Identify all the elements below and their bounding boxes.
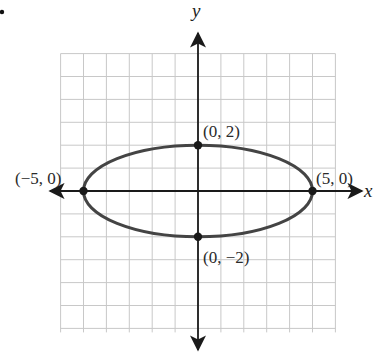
x-axis-label: x xyxy=(363,180,373,201)
point-bottom-covertex xyxy=(194,233,202,241)
label-right-vertex: (5, 0) xyxy=(316,169,353,188)
y-axis-label: y xyxy=(190,0,201,21)
label-top-covertex: (0, 2) xyxy=(203,122,240,141)
point-top-covertex xyxy=(194,141,202,149)
label-left-vertex: (−5, 0) xyxy=(15,169,61,188)
point-left-vertex xyxy=(79,187,87,195)
point-right-vertex xyxy=(308,187,316,195)
problem-bullet-icon xyxy=(0,10,4,14)
label-bottom-covertex: (0, −2) xyxy=(203,248,249,267)
ellipse-graph: y x (−5, 0) (5, 0) (0, 2) (0, −2) xyxy=(0,0,380,355)
